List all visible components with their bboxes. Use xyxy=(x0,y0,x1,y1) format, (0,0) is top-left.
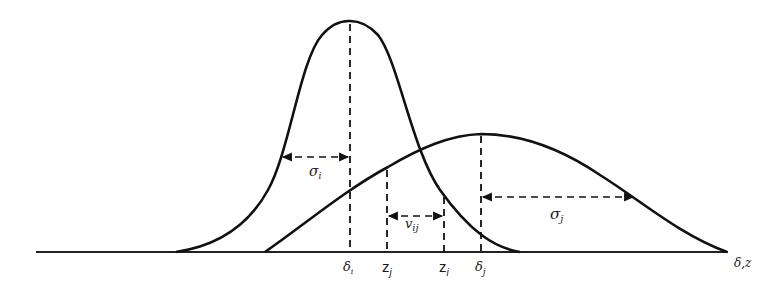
curve-i xyxy=(176,21,520,252)
tick-label-delta-i: δi xyxy=(343,259,354,276)
tick-label-z-j: zj xyxy=(382,258,393,278)
curve-j xyxy=(265,134,727,252)
tick-label-delta-j: δj xyxy=(475,259,486,277)
normal-distributions-diagram: σi vij σj δi zj zi δj δ,z xyxy=(0,0,780,291)
v-ij-label: vij xyxy=(405,216,419,233)
sigma-j-label: σj xyxy=(550,205,563,224)
axis-label: δ,z xyxy=(734,256,752,270)
tick-label-z-i: zi xyxy=(439,258,450,278)
sigma-i-label: σi xyxy=(309,163,322,181)
